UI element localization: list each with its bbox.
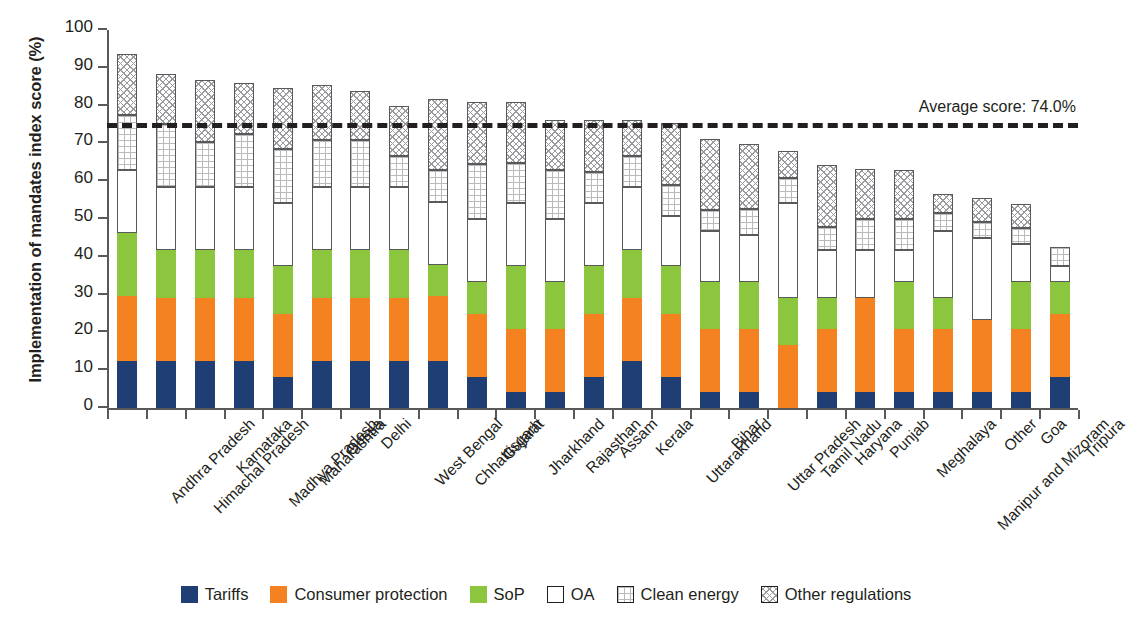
x-axis-line xyxy=(107,408,1078,410)
bar-segment xyxy=(312,361,332,408)
bar-segment xyxy=(661,314,681,377)
y-axis-tick-label: 0 xyxy=(84,395,93,415)
bar-segment xyxy=(778,203,798,298)
bar[interactable] xyxy=(234,30,254,408)
bar-segment xyxy=(739,392,759,408)
bar[interactable] xyxy=(584,30,604,408)
x-axis-tick xyxy=(573,410,575,419)
bar[interactable] xyxy=(739,30,759,408)
average-score-label: Average score: 74.0% xyxy=(919,98,1076,116)
y-axis-tick: 0 xyxy=(98,406,107,408)
bar[interactable] xyxy=(117,30,137,408)
y-axis-tick-label: 90 xyxy=(74,55,93,75)
bar[interactable] xyxy=(350,30,370,408)
x-axis-tick xyxy=(767,410,769,419)
bar[interactable] xyxy=(389,30,409,408)
legend-item[interactable]: OA xyxy=(547,585,595,604)
bar[interactable] xyxy=(778,30,798,408)
bar-segment xyxy=(972,198,992,222)
x-axis-tick xyxy=(961,410,963,419)
bar-segment xyxy=(700,231,720,281)
bar-segment xyxy=(312,140,332,187)
bar-segment xyxy=(1050,314,1070,377)
bar[interactable] xyxy=(312,30,332,408)
legend-item[interactable]: Other regulations xyxy=(761,585,912,604)
bar-segment xyxy=(428,361,448,408)
bar[interactable] xyxy=(156,30,176,408)
bar-segment xyxy=(739,329,759,392)
bar[interactable] xyxy=(467,30,487,408)
bar-segment xyxy=(622,361,642,408)
bar-segment xyxy=(584,266,604,313)
bar-segment xyxy=(661,123,681,185)
bar-segment xyxy=(273,266,293,313)
bar[interactable] xyxy=(273,30,293,408)
bar-segment xyxy=(661,377,681,408)
x-axis-tick xyxy=(728,410,730,419)
bar-segment xyxy=(428,265,448,296)
bar-segment xyxy=(894,250,914,281)
y-axis-tick-label: 70 xyxy=(74,130,93,150)
bar-segment xyxy=(506,163,526,202)
y-axis-tick-label: 50 xyxy=(74,206,93,226)
legend-item[interactable]: Clean energy xyxy=(617,585,739,604)
bar[interactable] xyxy=(817,30,837,408)
bar[interactable] xyxy=(506,30,526,408)
bar[interactable] xyxy=(661,30,681,408)
bar-segment xyxy=(1050,282,1070,313)
legend-item[interactable]: Tariffs xyxy=(181,585,249,604)
bar-segment xyxy=(661,266,681,313)
bar[interactable] xyxy=(622,30,642,408)
bar-segment xyxy=(273,88,293,150)
bar-segment xyxy=(972,392,992,408)
bar[interactable] xyxy=(1011,30,1031,408)
bar[interactable] xyxy=(428,30,448,408)
legend-label: OA xyxy=(571,585,595,604)
bar[interactable] xyxy=(1050,30,1070,408)
y-axis-tick-label: 60 xyxy=(74,168,93,188)
bar-segment xyxy=(312,187,332,250)
x-axis-tick xyxy=(845,410,847,419)
bar-segment xyxy=(506,266,526,329)
bar-segment xyxy=(350,250,370,297)
bar-segment xyxy=(972,238,992,320)
bar-segment xyxy=(117,361,137,408)
x-axis-tick xyxy=(457,410,459,419)
bar-segment xyxy=(739,144,759,209)
bar[interactable] xyxy=(195,30,215,408)
bar-segment xyxy=(506,329,526,392)
x-axis-label-text: Other xyxy=(1000,415,1040,455)
bar-segment xyxy=(933,329,953,392)
bar-segment xyxy=(545,219,565,282)
bar-segment xyxy=(933,392,953,408)
bar-segment xyxy=(1050,377,1070,408)
bar-segment xyxy=(855,250,875,297)
bar-segment xyxy=(156,298,176,361)
bar-segment xyxy=(1050,266,1070,282)
bar-segment xyxy=(428,99,448,170)
bar[interactable] xyxy=(972,30,992,408)
bar[interactable] xyxy=(700,30,720,408)
bar-segment xyxy=(234,134,254,188)
legend-swatch-icon xyxy=(617,586,634,603)
bar-segment xyxy=(933,298,953,329)
average-score-line xyxy=(107,123,1078,128)
x-axis-label: Goa xyxy=(1036,415,1069,448)
bar-segment xyxy=(428,170,448,201)
bar[interactable] xyxy=(933,30,953,408)
legend-item[interactable]: Consumer protection xyxy=(270,585,447,604)
x-axis-tick xyxy=(340,410,342,419)
bar-segment xyxy=(545,392,565,408)
bar[interactable] xyxy=(545,30,565,408)
x-axis-label: Other xyxy=(1000,415,1040,455)
x-axis-tick xyxy=(107,410,109,419)
bar-segment xyxy=(972,320,992,393)
legend-item[interactable]: SoP xyxy=(470,585,525,604)
bar[interactable] xyxy=(894,30,914,408)
bar-segment xyxy=(234,250,254,297)
y-axis-tick: 50 xyxy=(98,217,107,219)
bar-segment xyxy=(428,296,448,361)
bar-segment xyxy=(855,169,875,219)
bar-segment xyxy=(1011,244,1031,282)
bar[interactable] xyxy=(855,30,875,408)
